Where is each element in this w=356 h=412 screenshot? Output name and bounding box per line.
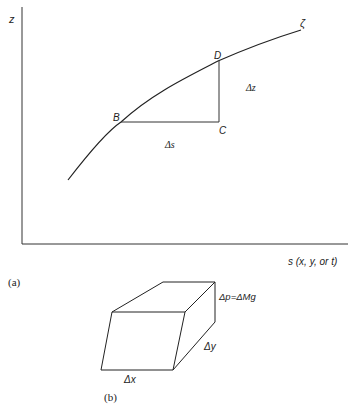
point-b-label: B — [113, 112, 120, 123]
pressure-label: Δp=ΔMg — [218, 291, 256, 302]
delta-z-label: Δz — [245, 82, 256, 93]
curve-label-zeta: ζ — [300, 17, 306, 30]
y-axis-label: z — [8, 13, 15, 25]
figure-b: Δp=ΔMg Δy Δx (b) — [101, 282, 256, 404]
x-axis-label: s (x, y, or t) — [288, 256, 337, 267]
zeta-curve — [68, 30, 301, 180]
point-d-label: D — [214, 50, 221, 61]
point-c-label: C — [219, 125, 227, 136]
delta-x-label: Δx — [123, 374, 137, 385]
panel-label-a: (a) — [8, 276, 21, 289]
panel-label-b: (b) — [104, 391, 117, 404]
box-outline — [101, 282, 215, 370]
figure-a: z s (x, y, or t) ζ B C D Δz Δs (a) — [8, 7, 348, 289]
diagram-canvas: z s (x, y, or t) ζ B C D Δz Δs (a) Δp=ΔM… — [0, 0, 356, 412]
delta-s-label: Δs — [164, 139, 175, 150]
delta-y-label: Δy — [203, 341, 217, 352]
